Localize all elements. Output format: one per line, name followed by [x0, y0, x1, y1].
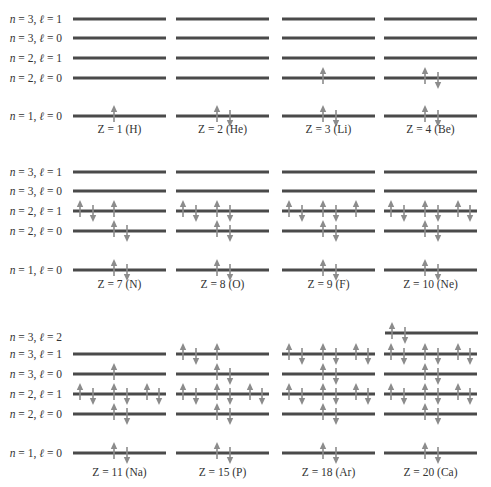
spin-down-arrow-icon: [467, 348, 473, 365]
atom-panel: Z = 9 (F): [282, 172, 375, 291]
spin-up-arrow-icon: [353, 200, 359, 217]
spin-up-arrow-icon: [214, 343, 220, 360]
spin-down-arrow-icon: [467, 205, 473, 222]
spin-down-arrow-icon: [401, 348, 407, 365]
spin-down-arrow-icon: [299, 388, 305, 405]
spin-up-arrow-icon: [214, 105, 220, 122]
spin-up-arrow-icon: [247, 383, 253, 400]
spin-up-arrow-icon: [111, 220, 117, 237]
spin-up-arrow-icon: [111, 259, 117, 276]
spin-down-arrow-icon: [156, 388, 162, 405]
spin-down-arrow-icon: [365, 388, 371, 405]
atom-caption: Z = 1 (H): [98, 123, 142, 136]
spin-up-arrow-icon: [388, 383, 394, 400]
spin-up-arrow-icon: [422, 363, 428, 380]
spin-down-arrow-icon: [402, 327, 408, 344]
spin-up-arrow-icon: [214, 383, 220, 400]
spin-up-arrow-icon: [422, 383, 428, 400]
atom-panel: Z = 1 (H): [73, 19, 166, 136]
spin-up-arrow-icon: [214, 403, 220, 420]
spin-up-arrow-icon: [388, 343, 394, 360]
level-label: n = 3, ℓ = 0: [10, 185, 63, 198]
spin-up-arrow-icon: [389, 322, 395, 339]
level-label: n = 1, ℓ = 0: [10, 264, 63, 277]
atom-caption: Z = 7 (N): [98, 278, 142, 291]
atom-panel: Z = 8 (O): [176, 172, 269, 291]
spin-up-arrow-icon: [111, 383, 117, 400]
atom-caption: Z = 20 (Ca): [403, 466, 457, 479]
spin-down-arrow-icon: [401, 388, 407, 405]
spin-down-arrow-icon: [227, 408, 233, 425]
spin-up-arrow-icon: [320, 403, 326, 420]
spin-up-arrow-icon: [455, 383, 461, 400]
spin-up-arrow-icon: [180, 200, 186, 217]
spin-up-arrow-icon: [353, 383, 359, 400]
spin-down-arrow-icon: [193, 205, 199, 222]
spin-up-arrow-icon: [111, 105, 117, 122]
atom-caption: Z = 4 (Be): [406, 123, 454, 136]
spin-down-arrow-icon: [333, 205, 339, 222]
spin-down-arrow-icon: [333, 368, 339, 385]
atom-panel: Z = 18 (Ar): [282, 343, 375, 479]
spin-up-arrow-icon: [286, 200, 292, 217]
spin-up-arrow-icon: [455, 200, 461, 217]
orbital-filling-diagram: n = 3, ℓ = 1n = 3, ℓ = 0n = 2, ℓ = 1n = …: [0, 0, 491, 487]
atom-panel: Z = 2 (He): [176, 19, 269, 136]
spin-up-arrow-icon: [180, 383, 186, 400]
level-label: n = 3, ℓ = 0: [10, 32, 63, 45]
spin-up-arrow-icon: [422, 343, 428, 360]
atom-panel: Z = 3 (Li): [282, 19, 375, 136]
level-label: n = 2, ℓ = 0: [10, 225, 63, 238]
spin-down-arrow-icon: [299, 348, 305, 365]
atom-caption: Z = 2 (He): [198, 123, 247, 136]
spin-up-arrow-icon: [320, 383, 326, 400]
atom-caption: Z = 8 (O): [201, 278, 245, 291]
spin-up-arrow-icon: [111, 363, 117, 380]
spin-down-arrow-icon: [90, 388, 96, 405]
spin-down-arrow-icon: [401, 205, 407, 222]
spin-down-arrow-icon: [435, 348, 441, 365]
spin-down-arrow-icon: [90, 205, 96, 222]
spin-up-arrow-icon: [320, 442, 326, 459]
spin-up-arrow-icon: [180, 343, 186, 360]
spin-up-arrow-icon: [320, 363, 326, 380]
level-label: n = 3, ℓ = 2: [10, 331, 63, 344]
level-label: n = 3, ℓ = 1: [10, 348, 63, 361]
spin-up-arrow-icon: [111, 200, 117, 217]
spin-down-arrow-icon: [333, 447, 339, 464]
level-label: n = 3, ℓ = 1: [10, 166, 63, 179]
spin-down-arrow-icon: [435, 368, 441, 385]
spin-up-arrow-icon: [214, 259, 220, 276]
spin-up-arrow-icon: [422, 105, 428, 122]
spin-up-arrow-icon: [320, 259, 326, 276]
spin-down-arrow-icon: [227, 225, 233, 242]
spin-up-arrow-icon: [320, 67, 326, 84]
spin-down-arrow-icon: [227, 368, 233, 385]
spin-down-arrow-icon: [124, 225, 130, 242]
spin-up-arrow-icon: [214, 220, 220, 237]
spin-up-arrow-icon: [422, 67, 428, 84]
level-label: n = 2, ℓ = 1: [10, 52, 63, 65]
spin-up-arrow-icon: [422, 220, 428, 237]
atom-caption: Z = 18 (Ar): [302, 466, 356, 479]
spin-down-arrow-icon: [333, 225, 339, 242]
level-label: n = 2, ℓ = 1: [10, 205, 63, 218]
spin-down-arrow-icon: [193, 348, 199, 365]
spin-up-arrow-icon: [286, 383, 292, 400]
spin-up-arrow-icon: [422, 403, 428, 420]
spin-down-arrow-icon: [435, 447, 441, 464]
spin-down-arrow-icon: [259, 388, 265, 405]
spin-down-arrow-icon: [333, 408, 339, 425]
atom-panel: Z = 7 (N): [73, 172, 166, 291]
level-label: n = 3, ℓ = 0: [10, 368, 63, 381]
atom-caption: Z = 10 (Ne): [403, 278, 458, 291]
spin-down-arrow-icon: [365, 348, 371, 365]
atom-caption: Z = 9 (F): [308, 278, 350, 291]
spin-down-arrow-icon: [227, 205, 233, 222]
spin-down-arrow-icon: [435, 205, 441, 222]
spin-up-arrow-icon: [320, 220, 326, 237]
spin-down-arrow-icon: [333, 348, 339, 365]
spin-up-arrow-icon: [422, 200, 428, 217]
atom-panel: Z = 11 (Na): [73, 354, 166, 479]
atom-caption: Z = 3 (Li): [306, 123, 352, 136]
